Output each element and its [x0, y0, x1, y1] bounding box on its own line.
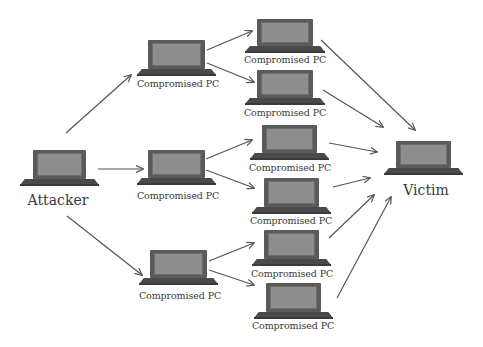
compromised-pc-label: Compromised PC — [244, 54, 326, 65]
compromised-pc-label: Compromised PC — [250, 215, 332, 226]
compromised-pc-label: Compromised PC — [139, 290, 221, 301]
attacker-label: Attacker — [28, 192, 89, 208]
ddos-attack-diagram: Attacker Compromised PC Compromised PC C… — [0, 0, 483, 347]
compromised-pc-label: Compromised PC — [137, 190, 219, 201]
victim-label: Victim — [403, 182, 449, 198]
compromised-pc-label: Compromised PC — [137, 78, 219, 89]
arrow-attacker-to-pc3 — [67, 216, 142, 275]
compromised-pc-label: Compromised PC — [244, 107, 326, 118]
compromised-pc-label: Compromised PC — [249, 162, 331, 173]
compromised-pc-label: Compromised PC — [251, 268, 333, 279]
arrow-attacker-to-pc1 — [66, 75, 131, 133]
compromised-pc-label: Compromised PC — [252, 320, 334, 331]
